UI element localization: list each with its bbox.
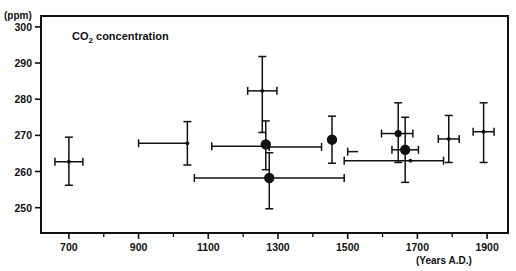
y-tick-label: 270 (2, 130, 32, 141)
data-marker (395, 130, 402, 137)
point-1350 (269, 143, 321, 151)
point-700 (55, 137, 83, 185)
plot-frame (41, 16, 508, 233)
x-tick-label: 1500 (328, 242, 368, 253)
point-1680 (344, 157, 443, 165)
data-marker (185, 141, 189, 145)
data-marker (260, 89, 264, 93)
point-1275-low (194, 153, 344, 209)
x-tick-label: 1700 (397, 242, 437, 253)
x-tick-label: 1900 (467, 242, 507, 253)
point-1455 (327, 116, 337, 163)
point-1790 (438, 115, 459, 162)
data-marker (400, 145, 410, 155)
x-tick-label: 1300 (258, 242, 298, 253)
y-tick-label: 280 (2, 94, 32, 105)
data-marker (482, 130, 486, 134)
data-series (55, 57, 494, 209)
point-1190 (212, 142, 270, 150)
y-tick-label: 250 (2, 203, 32, 214)
co2-concentration-chart: (ppm) (Years A.D.) CO2 concentration 250… (0, 0, 516, 271)
y-tick-label: 290 (2, 58, 32, 69)
x-tick-label: 900 (119, 242, 159, 253)
data-marker (264, 173, 274, 183)
axes-frame (41, 16, 508, 233)
data-marker (327, 134, 337, 144)
x-tick-label: 1100 (188, 242, 228, 253)
point-1040 (139, 122, 192, 165)
point-1890 (473, 103, 494, 163)
point-1530 (348, 148, 358, 156)
y-tick-label: 260 (2, 167, 32, 178)
data-marker (409, 159, 413, 163)
x-tick-label: 700 (49, 242, 89, 253)
data-marker (447, 137, 451, 141)
plot-area (0, 0, 516, 271)
data-marker (67, 160, 71, 164)
point-1665 (392, 117, 418, 182)
y-tick-label: 300 (2, 22, 32, 33)
